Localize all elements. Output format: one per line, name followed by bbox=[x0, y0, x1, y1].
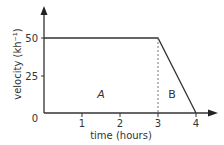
y-tick-label-50: 50 bbox=[25, 33, 38, 44]
velocity-line bbox=[44, 38, 196, 113]
velocity-time-chart: 50 25 0 1 2 3 4 time (hours) velocity (k… bbox=[0, 0, 224, 145]
y-axis-arrow-icon bbox=[41, 6, 48, 15]
x-tick-label-3: 3 bbox=[155, 118, 161, 129]
x-tick-label-2: 2 bbox=[117, 118, 123, 129]
region-a-label: A bbox=[96, 88, 105, 101]
y-tick-label-25: 25 bbox=[25, 71, 38, 82]
x-tick-label-4: 4 bbox=[193, 118, 199, 129]
origin-label: 0 bbox=[32, 113, 38, 124]
x-tick-label-1: 1 bbox=[79, 118, 85, 129]
x-axis-title: time (hours) bbox=[90, 130, 152, 141]
x-axis-arrow-icon bbox=[208, 110, 218, 117]
y-axis-title: velocity (kh⁻¹) bbox=[12, 28, 23, 100]
region-b-label: B bbox=[168, 88, 176, 101]
